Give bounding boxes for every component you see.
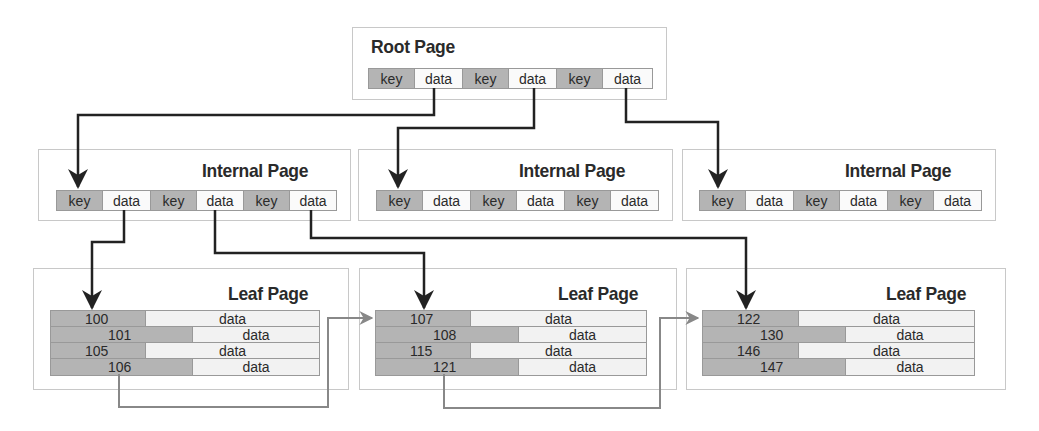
internal-to-leaf-3-arrow	[311, 210, 746, 308]
internal-to-leaf-1-arrow	[92, 210, 124, 308]
leaf-2-to-leaf-3-link	[444, 318, 698, 408]
root-to-internal-3-arrow	[626, 88, 718, 187]
internal-to-leaf-2-arrow	[215, 210, 424, 308]
root-to-internal-1-arrow	[78, 88, 434, 187]
root-to-internal-2-arrow	[398, 88, 534, 187]
pointer-arrows	[0, 0, 1039, 431]
leaf-1-to-leaf-2-link	[119, 318, 372, 407]
